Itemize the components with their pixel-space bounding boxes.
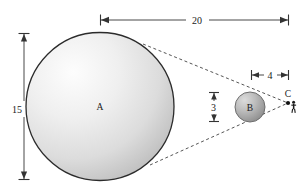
dimension-20-label: 20	[192, 15, 202, 26]
dimension-3-label: 3	[211, 102, 216, 113]
dimension-4: 4	[251, 68, 289, 82]
sphere-a: A	[26, 33, 174, 181]
sphere-b-label: B	[247, 103, 253, 113]
dimension-20-arrow-right	[280, 17, 288, 23]
dimension-3-arrow-bottom	[211, 115, 217, 122]
dimension-3: 3	[208, 92, 220, 122]
observer-figure-icon	[291, 101, 296, 113]
dimension-15-label: 15	[12, 104, 22, 115]
dimension-15-arrow-top	[21, 34, 27, 42]
dimension-3-arrow-top	[211, 93, 217, 100]
dimension-20-arrow-left	[101, 17, 109, 23]
point-c-group: C	[285, 89, 296, 113]
dimension-20: 20	[100, 12, 289, 27]
sphere-a-label: A	[97, 102, 104, 112]
diagram-canvas: A B C 20	[0, 0, 305, 188]
dimension-4-label: 4	[268, 70, 273, 81]
dimension-4-arrow-right	[281, 72, 288, 78]
dimension-15-arrow-bottom	[21, 172, 27, 180]
point-c-marker	[286, 101, 290, 105]
dimension-4-arrow-left	[252, 72, 259, 78]
point-c-label: C	[285, 89, 291, 99]
sphere-b: B	[235, 92, 265, 122]
